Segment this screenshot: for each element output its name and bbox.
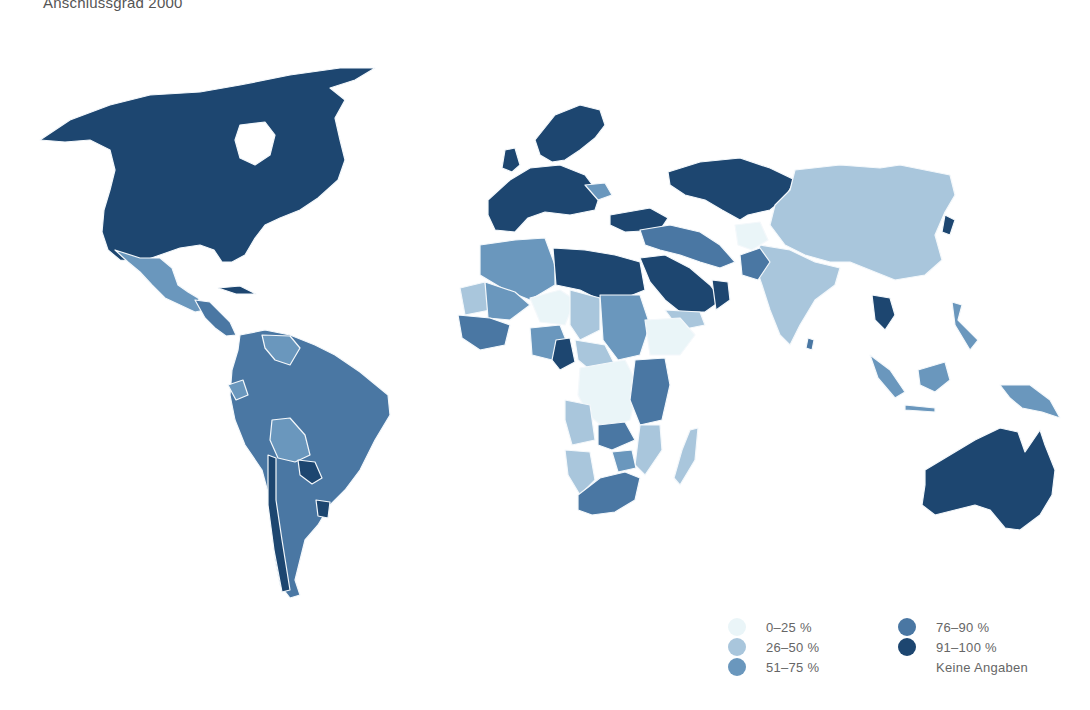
region-australia: [922, 428, 1055, 530]
region-west-africa: [458, 315, 510, 350]
region-cuba: [218, 286, 256, 294]
region-philippines: [952, 302, 978, 350]
legend-label: 0–25 %: [766, 620, 812, 635]
legend-item-91-100: 91–100 %: [898, 638, 997, 656]
legend-item-51-75: 51–75 %: [728, 658, 819, 676]
region-sri-lanka: [806, 338, 814, 350]
region-papua: [1000, 385, 1060, 418]
legend-swatch-icon: [728, 658, 746, 676]
legend-swatch-icon: [728, 618, 746, 636]
region-indonesia: [870, 355, 950, 412]
region-thailand: [872, 295, 895, 330]
legend-label: 76–90 %: [936, 620, 989, 635]
region-korea: [942, 215, 955, 235]
legend-swatch-icon: [898, 618, 916, 636]
legend-label: 91–100 %: [936, 640, 997, 655]
region-east-africa: [630, 358, 670, 425]
map-legend: 0–25 % 26–50 % 51–75 % 76–90 % 91–100 % …: [728, 618, 1058, 678]
region-libya-egypt: [553, 248, 645, 300]
legend-item-0-25: 0–25 %: [728, 618, 812, 636]
region-cameroon: [552, 338, 575, 370]
region-angola: [565, 400, 595, 445]
region-western-europe: [488, 165, 600, 232]
region-zimbabwe: [612, 450, 636, 472]
region-uruguay: [316, 500, 330, 518]
legend-item-26-50: 26–50 %: [728, 638, 819, 656]
legend-item-no-data: Keine Angaben: [898, 658, 1028, 676]
legend-swatch-icon: [898, 658, 916, 676]
region-zambia: [598, 422, 635, 450]
region-mozambique: [635, 425, 662, 475]
region-chad: [570, 290, 600, 340]
region-uk: [502, 148, 520, 172]
world-map: [0, 0, 1090, 710]
region-madagascar: [674, 428, 698, 485]
legend-label: 26–50 %: [766, 640, 819, 655]
legend-label: Keine Angaben: [936, 660, 1028, 675]
legend-item-76-90: 76–90 %: [898, 618, 989, 636]
legend-swatch-icon: [728, 638, 746, 656]
region-scandinavia: [535, 105, 605, 162]
region-north-america: [40, 68, 375, 262]
region-mexico: [115, 250, 205, 312]
region-central-america: [195, 300, 236, 336]
legend-swatch-icon: [898, 638, 916, 656]
legend-label: 51–75 %: [766, 660, 819, 675]
